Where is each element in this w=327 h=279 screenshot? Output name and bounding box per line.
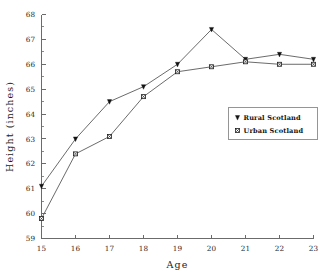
y-tick-label: 59 bbox=[26, 234, 36, 243]
y-tick-label: 65 bbox=[26, 85, 36, 94]
data-point-marker-rural bbox=[175, 62, 179, 67]
y-axis-title: Height (inches) bbox=[4, 81, 15, 172]
x-tick-label: 21 bbox=[241, 244, 251, 253]
data-point-marker-urban bbox=[40, 217, 44, 221]
line-chart: 59606162636465666768 151617181920212223 … bbox=[0, 0, 327, 279]
y-tick-label: 62 bbox=[26, 159, 36, 168]
y-tick-label: 64 bbox=[26, 110, 36, 119]
data-point-marker-rural bbox=[311, 57, 315, 62]
x-tick-label: 19 bbox=[173, 244, 183, 253]
x-tick-label: 23 bbox=[309, 244, 319, 253]
y-tick-label: 68 bbox=[26, 10, 36, 19]
data-point-marker-urban bbox=[210, 65, 214, 69]
legend-label: Rural Scotland bbox=[244, 114, 302, 122]
y-tick-label: 61 bbox=[26, 184, 36, 193]
chart-container: 59606162636465666768 151617181920212223 … bbox=[0, 0, 327, 279]
data-point-marker-urban bbox=[74, 152, 78, 156]
data-point-marker-rural bbox=[39, 184, 43, 189]
x-tick-label: 16 bbox=[71, 244, 81, 253]
y-tick-label: 67 bbox=[26, 35, 36, 44]
legend-label: Urban Scotland bbox=[244, 127, 304, 135]
data-point-marker-urban bbox=[312, 62, 316, 66]
x-axis-ticks: 151617181920212223 bbox=[37, 235, 319, 253]
data-point-marker-urban bbox=[176, 70, 180, 74]
data-point-marker-urban bbox=[108, 134, 112, 138]
x-tick-label: 18 bbox=[139, 244, 149, 253]
data-point-marker-urban bbox=[236, 129, 240, 133]
data-point-marker-urban bbox=[244, 60, 248, 64]
x-tick-label: 20 bbox=[207, 244, 217, 253]
x-axis-title: Age bbox=[166, 259, 189, 270]
x-tick-label: 15 bbox=[37, 244, 47, 253]
y-tick-label: 60 bbox=[26, 209, 36, 218]
x-tick-label: 17 bbox=[105, 244, 115, 253]
series-line-urban-scotland bbox=[42, 62, 314, 219]
x-tick-label: 22 bbox=[275, 244, 285, 253]
y-axis-ticks: 59606162636465666768 bbox=[26, 10, 46, 243]
chart-legend: Rural ScotlandUrban Scotland bbox=[229, 108, 318, 140]
y-tick-label: 63 bbox=[26, 135, 36, 144]
data-point-marker-urban bbox=[142, 95, 146, 99]
data-point-marker-urban bbox=[278, 62, 282, 66]
y-tick-label: 66 bbox=[26, 60, 36, 69]
